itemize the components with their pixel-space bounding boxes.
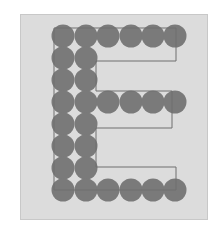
- dot-circle: [75, 157, 98, 180]
- dot-circle: [52, 47, 75, 70]
- dot-circle: [75, 69, 98, 92]
- dot-circle: [52, 113, 75, 136]
- letter-e-diagram: [0, 0, 221, 234]
- dot-circle: [142, 91, 165, 114]
- dot-circle: [52, 91, 75, 114]
- dot-circle: [75, 47, 98, 70]
- dot-circle: [75, 135, 98, 158]
- dot-circle: [164, 91, 187, 114]
- dot-circle: [52, 135, 75, 158]
- dot-circle: [52, 69, 75, 92]
- dot-circle: [75, 91, 98, 114]
- dot-circle: [75, 113, 98, 136]
- dot-circle: [97, 91, 120, 114]
- dot-circle: [120, 91, 143, 114]
- dot-circle: [52, 157, 75, 180]
